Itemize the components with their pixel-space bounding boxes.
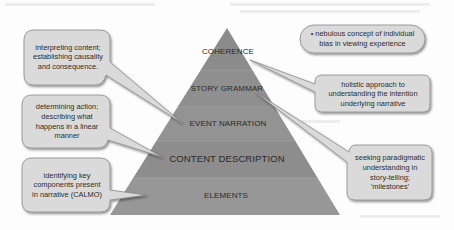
callout-coherence-note: • nebulous concept of individual bias in… [304,26,421,52]
layer-label-coherence: COHERENCE [202,47,254,56]
layer-label-elements: ELEMENTS [204,191,248,200]
callout-seeking: seeking paradigmatic understanding in st… [350,147,430,198]
layer-label-event-narration: EVENT NARRATION [190,119,267,128]
callout-interpreting: interpreting content; establishing causa… [28,32,108,82]
callout-holistic: holistic approach to understanding the i… [316,77,430,111]
callout-determining: determining action; describing what happ… [26,97,108,146]
callout-identifying: identifying key components present in na… [28,160,106,210]
diagram-canvas: COHERENCE STORY GRAMMAR EVENT NARRATION … [0,0,454,230]
layer-label-story-grammar: STORY GRAMMAR [191,84,263,93]
layer-label-content-description: CONTENT DESCRIPTION [169,153,284,164]
